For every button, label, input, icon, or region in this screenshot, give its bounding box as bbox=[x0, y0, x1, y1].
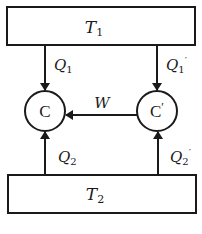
label-q2-prime: Q2′ bbox=[170, 147, 192, 167]
engine-c-label: C bbox=[39, 102, 50, 121]
cold-reservoir: T2 bbox=[8, 175, 196, 213]
label-q1-prime: Q1′ bbox=[166, 55, 188, 75]
engine-c-prime: C′ bbox=[137, 91, 177, 131]
label-work: W bbox=[94, 94, 111, 112]
hot-reservoir: T1 bbox=[7, 7, 195, 45]
engine-c: C bbox=[25, 91, 65, 131]
heat-engine-diagram: T1 T2 C C′ Q1 Q1′ W Q2 Q2′ bbox=[0, 0, 202, 234]
label-q1: Q1 bbox=[54, 56, 73, 75]
label-q2: Q2 bbox=[58, 148, 77, 167]
